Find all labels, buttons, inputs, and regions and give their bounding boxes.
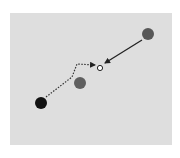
middle-gray-dot xyxy=(74,77,86,89)
top-right-dot xyxy=(142,28,154,40)
diagram-canvas xyxy=(0,0,180,158)
hollow-target-dot xyxy=(97,65,102,70)
black-start-dot xyxy=(35,97,47,109)
